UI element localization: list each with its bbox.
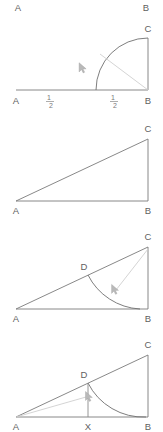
radius-line xyxy=(100,54,148,90)
label-b-panel4: B xyxy=(145,421,151,432)
panel-1-svg: C A B 1 2 1 2 xyxy=(0,16,163,108)
measure-half-left: 1 2 xyxy=(46,94,54,108)
radius-line-panel3 xyxy=(116,249,148,290)
panel-triangle-arc: C D A B xyxy=(0,216,163,324)
measure-half-right: 1 2 xyxy=(110,94,118,108)
panel-quarter-circle: C A B 1 2 1 2 xyxy=(0,16,163,108)
label-c-panel4: C xyxy=(145,339,152,350)
panel-2-svg: C A B xyxy=(0,108,163,216)
header-label-row: A B xyxy=(0,0,163,16)
header-label-right: B xyxy=(143,2,149,13)
cursor-arrow-icon-panel4 xyxy=(86,392,93,402)
measure-half-right-numerator: 1 xyxy=(111,94,115,101)
label-c-panel1: C xyxy=(145,23,152,34)
label-d-panel3: D xyxy=(81,261,88,272)
hypotenuse-ac-panel3 xyxy=(16,247,148,309)
measure-half-left-numerator: 1 xyxy=(47,94,51,101)
label-a-panel2: A xyxy=(13,205,20,216)
hypotenuse-ac-panel4 xyxy=(16,355,148,417)
quarter-arc xyxy=(96,38,148,90)
label-c-panel3: C xyxy=(145,231,152,242)
cursor-arrow-icon-panel3 xyxy=(112,284,119,294)
geometry-figure-stack: A B C A B 1 xyxy=(0,0,163,432)
cursor-arrow-icon xyxy=(79,63,86,73)
label-b-panel1: B xyxy=(145,95,151,106)
header-label-svg: A B xyxy=(0,0,163,16)
label-c-panel2: C xyxy=(145,123,152,134)
label-x-panel4: X xyxy=(85,421,92,432)
panel-3-svg: C D A B xyxy=(0,216,163,324)
arc-d-to-base xyxy=(88,275,140,309)
panel-triangle-perpendicular: C D A X B xyxy=(0,324,163,432)
hypotenuse-ac xyxy=(16,139,148,201)
panel-right-triangle: C A B xyxy=(0,108,163,216)
arc-d-to-b xyxy=(88,383,146,417)
label-b-panel2: B xyxy=(145,205,151,216)
label-a-panel3: A xyxy=(13,313,20,324)
header-label-left: A xyxy=(15,2,22,13)
label-b-panel3: B xyxy=(145,313,151,324)
label-a-panel4: A xyxy=(13,421,20,432)
label-a-panel1: A xyxy=(13,95,20,106)
label-d-panel4: D xyxy=(81,369,88,380)
panel-4-svg: C D A X B xyxy=(0,324,163,432)
guide-line-from-a xyxy=(16,397,86,417)
